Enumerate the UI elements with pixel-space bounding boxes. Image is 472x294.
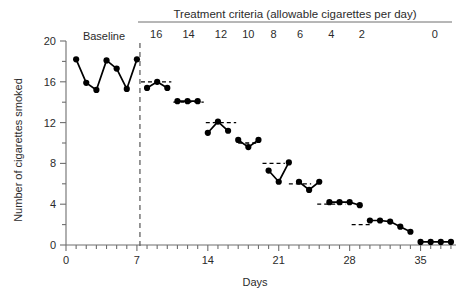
- data-point: [316, 179, 322, 185]
- y-axis-ticks: [60, 41, 66, 245]
- criteria-value: 14: [182, 28, 194, 40]
- data-point: [134, 56, 140, 62]
- data-point: [347, 199, 353, 205]
- data-point: [357, 202, 363, 208]
- x-tick-label: 14: [202, 254, 214, 266]
- data-point: [225, 128, 231, 134]
- data-point: [114, 65, 120, 71]
- criteria-value: 4: [328, 28, 334, 40]
- data-point: [73, 56, 79, 62]
- x-axis-ticks: [66, 245, 451, 251]
- data-point: [397, 224, 403, 230]
- data-point: [306, 187, 312, 193]
- criteria-value: 0: [432, 28, 438, 40]
- data-point: [377, 217, 383, 223]
- data-series-lines: [76, 59, 451, 242]
- data-point: [428, 239, 434, 245]
- figure-container: Treatment criteria (allowable cigarettes…: [0, 0, 472, 294]
- x-tick-label: 35: [414, 254, 426, 266]
- y-axis-tick-labels: 048121620: [44, 35, 56, 251]
- y-axis-label: Number of cigarettes smoked: [12, 78, 24, 222]
- x-tick-label: 0: [63, 254, 69, 266]
- x-tick-label: 7: [134, 254, 140, 266]
- data-point: [296, 179, 302, 185]
- data-series-points: [73, 56, 454, 245]
- y-tick-label: 12: [44, 117, 56, 129]
- data-point: [448, 239, 454, 245]
- data-point: [326, 199, 332, 205]
- data-point: [367, 217, 373, 223]
- baseline-phase-label: Baseline: [83, 30, 125, 42]
- data-point: [286, 159, 292, 165]
- criteria-number-row: 1614121086420: [150, 28, 438, 40]
- data-point: [255, 137, 261, 143]
- data-point: [417, 239, 423, 245]
- criteria-value: 12: [215, 28, 227, 40]
- criteria-header: Treatment criteria (allowable cigarettes…: [138, 8, 452, 40]
- criteria-header-title: Treatment criteria (allowable cigarettes…: [173, 8, 416, 20]
- y-tick-label: 16: [44, 76, 56, 88]
- data-point: [144, 85, 150, 91]
- x-tick-label: 21: [273, 254, 285, 266]
- x-tick-label: 28: [344, 254, 356, 266]
- y-tick-label: 4: [50, 198, 56, 210]
- data-point: [438, 239, 444, 245]
- data-point: [245, 144, 251, 150]
- x-axis-tick-labels: 0714212835: [63, 254, 427, 266]
- data-point: [205, 130, 211, 136]
- data-point: [195, 98, 201, 104]
- criteria-value: 10: [242, 28, 254, 40]
- data-point: [276, 179, 282, 185]
- data-point: [266, 167, 272, 173]
- data-point: [215, 118, 221, 124]
- data-point: [103, 57, 109, 63]
- data-point: [83, 80, 89, 86]
- y-tick-label: 0: [50, 239, 56, 251]
- data-point: [93, 87, 99, 93]
- criteria-value: 2: [359, 28, 365, 40]
- criteria-value: 16: [150, 28, 162, 40]
- y-tick-label: 8: [50, 157, 56, 169]
- y-tick-label: 20: [44, 35, 56, 47]
- data-point: [174, 98, 180, 104]
- data-point: [124, 86, 130, 92]
- data-point: [164, 85, 170, 91]
- data-point: [235, 137, 241, 143]
- data-point: [387, 218, 393, 224]
- data-point: [184, 98, 190, 104]
- smoking-reduction-chart: Treatment criteria (allowable cigarettes…: [0, 0, 472, 294]
- criteria-value: 8: [271, 28, 277, 40]
- data-point: [336, 199, 342, 205]
- data-point: [154, 79, 160, 85]
- axes: 048121620 0714212835: [44, 35, 456, 266]
- x-axis-label: Days: [242, 276, 268, 288]
- data-point: [407, 229, 413, 235]
- criteria-value: 6: [297, 28, 303, 40]
